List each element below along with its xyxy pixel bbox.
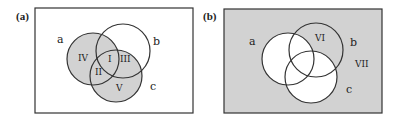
venn-diagram-figure: (a) a b c IV I III II V (b) a b c VI VII [0,0,399,122]
set-label-a: a [57,33,64,46]
region-label-ii: II [95,67,103,77]
region-label-v: V [115,83,123,93]
set-label-b: b [350,36,357,49]
region-label-i: I [108,54,112,64]
panel-b: (b) a b c VI VII [203,9,382,113]
panel-a: (a) a b c IV I III II V [16,8,193,113]
set-label-c: c [150,80,156,93]
region-label-vii: VII [354,59,369,69]
set-label-a: a [249,35,256,48]
region-label-vi: VI [314,33,325,43]
set-label-c: c [346,83,352,96]
region-label-iii: III [120,54,131,64]
panel-b-label: (b) [203,10,217,23]
set-label-b: b [153,35,160,48]
panel-a-label: (a) [16,10,29,23]
region-label-iv: IV [78,53,89,63]
